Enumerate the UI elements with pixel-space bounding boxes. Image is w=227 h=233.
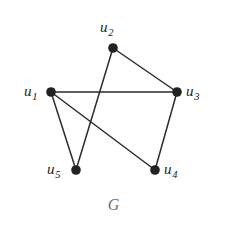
vertex-label-u3: u3 [186, 84, 199, 99]
graph-edge-u3-u4 [155, 92, 177, 170]
vertex-label-u5: u5 [47, 162, 60, 177]
vertex-label-subscript-u5: 5 [55, 169, 60, 180]
graph-edge-u2-u5 [76, 48, 113, 170]
graph-edge-u1-u4 [51, 92, 155, 170]
graph-vertex-u1 [46, 87, 56, 97]
graph-edge-u1-u5 [51, 92, 76, 170]
graph-vertex-u4 [150, 165, 160, 175]
edge-layer [51, 48, 177, 170]
graph-vertex-u5 [71, 165, 81, 175]
vertex-label-u2: u2 [100, 20, 113, 35]
vertex-label-base-u4: u [164, 161, 172, 177]
vertex-label-subscript-u4: 4 [172, 169, 177, 180]
vertex-label-base-u2: u [100, 19, 108, 35]
vertex-label-base-u5: u [47, 161, 55, 177]
vertex-label-base-u3: u [186, 83, 194, 99]
graph-vertex-u3 [172, 87, 182, 97]
vertex-label-subscript-u3: 3 [194, 91, 199, 102]
graph-figure: u1u2u3u4u5 G [0, 0, 227, 233]
graph-vertex-u2 [108, 43, 118, 53]
vertex-label-u1: u1 [24, 84, 37, 99]
vertex-label-subscript-u1: 1 [32, 91, 37, 102]
vertex-label-u4: u4 [164, 162, 177, 177]
vertex-label-subscript-u2: 2 [108, 27, 113, 38]
vertex-label-base-u1: u [24, 83, 32, 99]
figure-caption: G [0, 197, 227, 213]
graph-edge-u2-u3 [113, 48, 177, 92]
vertex-layer [46, 43, 182, 175]
